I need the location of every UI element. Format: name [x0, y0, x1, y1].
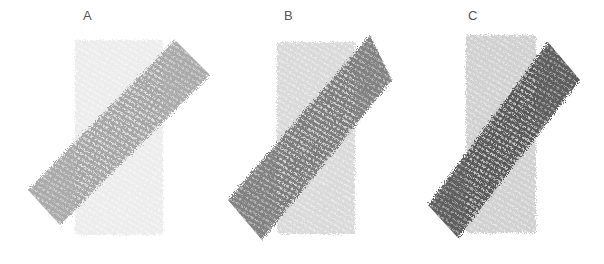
panel-a	[28, 40, 210, 235]
panel-label-a: A	[83, 8, 92, 23]
panel-b	[228, 35, 392, 240]
panel-label-b: B	[284, 8, 293, 23]
panel-c	[428, 35, 580, 238]
panel-label-c: C	[468, 8, 477, 23]
figure-canvas	[0, 0, 604, 264]
